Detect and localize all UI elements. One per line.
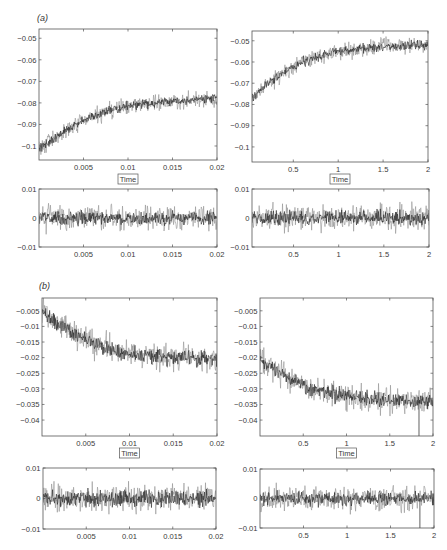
x-axis-label-text: Time <box>332 175 349 184</box>
y-tick-label: 0.01 <box>22 185 37 194</box>
y-tick-label: 0.01 <box>243 465 258 474</box>
x-axis-label: Time <box>330 174 350 184</box>
signal-trace-light <box>252 37 428 99</box>
y-tick-label: −0.025 <box>234 369 257 378</box>
plot-a-left-residual: 0.0050.010.0150.02−0.0100.01 <box>17 185 224 259</box>
y-tick-label: −0.08 <box>230 100 249 109</box>
y-tick-label: −0.03 <box>238 385 257 394</box>
signal-trace-dark <box>252 40 428 102</box>
x-tick-label: 0.015 <box>163 250 182 259</box>
axes-box <box>39 29 217 160</box>
x-tick-label: 1.5 <box>385 531 396 540</box>
y-tick-label: −0.02 <box>238 353 257 362</box>
x-axis-label: Time <box>120 448 140 458</box>
y-tick-label: 0 <box>245 214 249 223</box>
y-tick-label: −0.025 <box>16 369 39 378</box>
x-tick-label: 0.02 <box>210 250 225 259</box>
x-axis-label-text: Time <box>121 449 138 458</box>
y-tick-label: −0.01 <box>238 322 257 331</box>
y-tick-label: −0.005 <box>16 307 39 316</box>
x-tick-label: 1 <box>337 250 341 259</box>
figure: (a) (b) 0.0050.010.0150.02−0.1−0.09−0.08… <box>0 0 447 550</box>
y-tick-label: −0.08 <box>17 99 36 108</box>
signal-trace-dark <box>252 209 429 226</box>
x-tick-label: 2 <box>426 165 430 174</box>
axes-box <box>260 298 433 436</box>
axes-box <box>252 31 428 162</box>
y-tick-label: −0.01 <box>17 243 36 252</box>
x-axis-label-text: Time <box>338 449 355 458</box>
y-tick-label: −0.07 <box>17 77 36 86</box>
x-tick-label: 1 <box>336 165 340 174</box>
y-tick-label: −0.09 <box>230 121 249 130</box>
x-tick-label: 0.5 <box>298 531 309 540</box>
x-tick-label: 0.02 <box>210 163 225 172</box>
trace-group <box>39 90 217 154</box>
y-tick-label: −0.05 <box>17 34 36 43</box>
plot-b-left-residual: 0.0050.010.0150.02−0.0100.01 <box>21 464 223 541</box>
x-tick-label: 0.5 <box>288 165 299 174</box>
x-tick-label: 0.01 <box>122 532 137 541</box>
y-tick-label: 0 <box>36 494 40 503</box>
x-axis-label: Time <box>337 448 357 458</box>
y-tick-label: −0.1 <box>22 142 37 151</box>
trace-group <box>42 296 217 373</box>
y-tick-label: 0 <box>32 214 36 223</box>
trace-group <box>39 203 217 234</box>
y-tick-label: −0.015 <box>16 338 39 347</box>
y-tick-label: −0.015 <box>234 338 257 347</box>
x-tick-label: 0.02 <box>210 439 225 448</box>
trace-group <box>43 481 216 514</box>
x-axis-label: Time <box>118 174 138 184</box>
trace-group <box>260 483 434 530</box>
signal-trace-light <box>39 203 217 234</box>
y-tick-label: 0 <box>253 494 257 503</box>
x-axis-label-text: Time <box>120 175 137 184</box>
plot-b-right-residual: 0.511.52−0.0100.01 <box>238 465 436 540</box>
x-tick-label: 0.01 <box>121 250 136 259</box>
x-tick-label: 2 <box>431 439 435 448</box>
y-tick-label: −0.01 <box>230 243 249 252</box>
y-tick-label: −0.01 <box>21 525 40 534</box>
x-tick-label: 1.5 <box>378 165 389 174</box>
x-tick-label: 0.015 <box>164 439 183 448</box>
x-tick-label: 0.01 <box>122 439 137 448</box>
x-tick-label: 0.015 <box>163 532 182 541</box>
x-tick-label: 0.5 <box>298 439 309 448</box>
y-tick-label: −0.035 <box>16 400 39 409</box>
y-tick-label: −0.09 <box>17 120 36 129</box>
y-tick-label: −0.1 <box>235 143 250 152</box>
y-tick-label: 0.01 <box>235 185 250 194</box>
trace-group <box>252 37 428 102</box>
x-tick-label: 2 <box>427 250 431 259</box>
plot-b-left-main: 0.0050.010.0150.02−0.04−0.035−0.03−0.025… <box>16 296 224 458</box>
x-tick-label: 0.005 <box>76 439 95 448</box>
x-tick-label: 1 <box>344 439 348 448</box>
plot-b-right-main: 0.511.52−0.04−0.035−0.03−0.025−0.02−0.01… <box>234 298 435 458</box>
y-tick-label: −0.04 <box>238 416 257 425</box>
y-tick-label: −0.005 <box>234 307 257 316</box>
y-tick-label: −0.04 <box>20 416 39 425</box>
x-tick-label: 0.5 <box>288 250 299 259</box>
y-tick-label: −0.035 <box>234 400 257 409</box>
x-tick-label: 0.005 <box>77 532 96 541</box>
x-tick-label: 1.5 <box>384 439 395 448</box>
y-tick-label: 0.01 <box>26 464 41 473</box>
trace-group <box>260 347 433 441</box>
axes-box <box>42 298 217 436</box>
x-tick-label: 2 <box>432 531 436 540</box>
x-tick-label: 1 <box>345 531 349 540</box>
y-tick-label: −0.06 <box>230 58 249 67</box>
x-tick-label: 0.005 <box>74 163 93 172</box>
y-tick-label: −0.06 <box>17 56 36 65</box>
trace-group <box>252 202 429 234</box>
plot-a-right-main: 0.511.52−0.1−0.09−0.08−0.07−0.06−0.05Tim… <box>230 31 430 184</box>
plot-canvas: 0.0050.010.0150.02−0.1−0.09−0.08−0.07−0.… <box>0 0 447 550</box>
y-tick-label: −0.07 <box>230 79 249 88</box>
plot-a-right-residual: 0.511.52−0.0100.01 <box>230 185 431 259</box>
plot-a-left-main: 0.0050.010.0150.02−0.1−0.09−0.08−0.07−0.… <box>17 29 224 184</box>
x-tick-label: 1.5 <box>379 250 390 259</box>
signal-trace-dark <box>42 308 217 367</box>
y-tick-label: −0.01 <box>238 524 257 533</box>
x-tick-label: 0.01 <box>121 163 136 172</box>
